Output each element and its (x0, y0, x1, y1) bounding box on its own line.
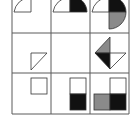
cell-0-0-quarter-circle (14, 0, 31, 12)
cell-0-1-half-circle (53, 0, 87, 12)
figure-matrix (0, 0, 134, 125)
cell-2-2-three-squares (94, 78, 126, 110)
cell-1-2-diamond (95, 37, 126, 69)
cell-2-0-square (31, 78, 47, 94)
cell-0-2-three-quarters (92, 0, 126, 29)
cell-2-1-two-squares (70, 78, 86, 110)
cell-1-0-triangle (31, 53, 47, 70)
